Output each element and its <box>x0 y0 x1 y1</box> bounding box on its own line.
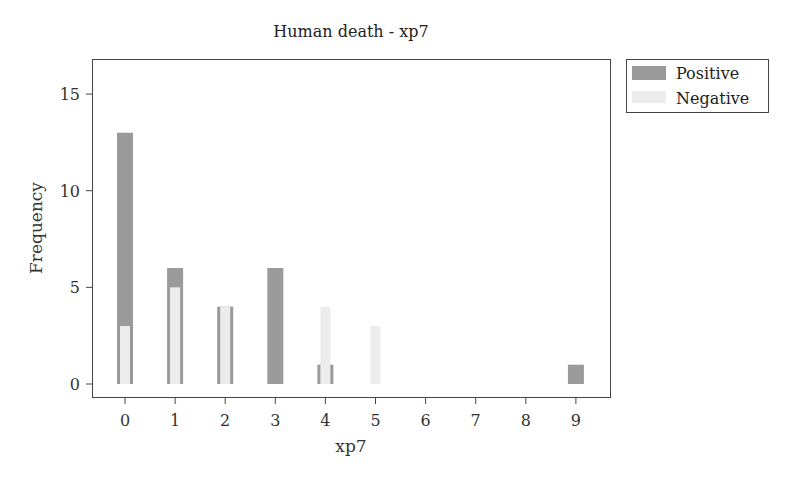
legend-label-positive: Positive <box>676 64 739 83</box>
chart: Human death - xp7 051015 0123456789 xp7 … <box>0 0 800 494</box>
x-tick-label: 8 <box>521 411 531 430</box>
x-tick-label: 0 <box>120 411 130 430</box>
x-tick-label: 3 <box>270 411 280 430</box>
bar-negative-1 <box>170 287 180 384</box>
y-tick-label: 0 <box>70 375 80 394</box>
y-tick-label: 10 <box>60 182 80 201</box>
legend: Positive Negative <box>627 60 769 113</box>
x-tick-label: 1 <box>170 411 180 430</box>
x-axis-title: xp7 <box>335 436 366 456</box>
y-tick-label: 15 <box>60 85 80 104</box>
y-axis-title: Frequency <box>26 182 46 274</box>
x-tick-label: 2 <box>220 411 230 430</box>
y-axis: 051015 <box>60 85 93 394</box>
x-tick-label: 4 <box>320 411 330 430</box>
x-tick-label: 6 <box>421 411 431 430</box>
bar-negative-2 <box>220 307 230 384</box>
x-tick-label: 7 <box>471 411 481 430</box>
x-tick-label: 5 <box>370 411 380 430</box>
legend-swatch-positive <box>632 66 666 80</box>
bar-positive-9 <box>568 365 584 384</box>
x-tick-label: 9 <box>571 411 581 430</box>
x-axis: 0123456789 <box>120 398 581 431</box>
legend-swatch-negative <box>632 91 666 103</box>
bars-group <box>117 133 584 384</box>
bar-negative-0 <box>120 326 130 384</box>
bar-positive-3 <box>267 268 283 384</box>
bar-negative-5 <box>371 326 381 384</box>
bar-negative-4 <box>320 307 330 384</box>
chart-title: Human death - xp7 <box>273 22 428 41</box>
legend-label-negative: Negative <box>676 89 749 108</box>
y-tick-label: 5 <box>70 278 80 297</box>
